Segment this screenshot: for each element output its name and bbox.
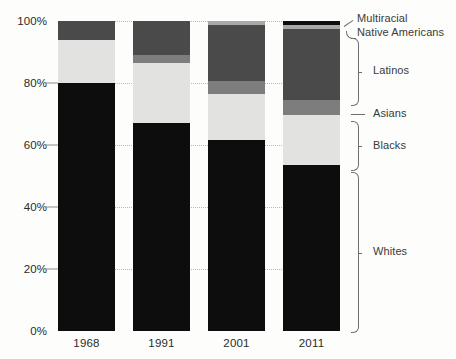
segment-blacks-2001: [208, 94, 265, 141]
segment-native-americans-2011: [283, 25, 340, 29]
ytick-label-0: 0%: [30, 325, 47, 337]
ytick-label-80: 80%: [24, 77, 47, 89]
segment-whites-2011: [283, 165, 340, 331]
segment-blacks-1968: [58, 40, 115, 83]
legend-label-whites: Whites: [373, 245, 407, 257]
bar-1991[interactable]: [133, 21, 190, 331]
ytick-dash-80: [45, 83, 58, 84]
legend-label-multiracial: Multiracial: [357, 12, 408, 24]
segment-whites-1968: [58, 83, 115, 331]
latinos-brace: [351, 38, 359, 106]
whites-brace: [351, 172, 359, 333]
legend-label-asians: Asians: [373, 107, 407, 119]
segment-multiracial-2011: [283, 21, 340, 25]
xtick-label-2001: 2001: [208, 337, 265, 349]
xtick-label-1968: 1968: [58, 337, 115, 349]
multiracial-leader: [344, 20, 354, 27]
bar-2011[interactable]: [283, 21, 340, 331]
ytick-label-20: 20%: [24, 263, 47, 275]
segment-native-americans-2001: [208, 21, 265, 25]
segment-asians-2001: [208, 81, 265, 94]
stacked-bar-chart: 100% 80% 60% 40% 20% 0% 1968 1991: [0, 0, 456, 359]
ytick-label-100: 100%: [17, 15, 47, 27]
ytick-dash-60: [45, 145, 58, 146]
segment-blacks-1991: [133, 63, 190, 123]
legend-label-blacks: Blacks: [373, 139, 406, 151]
segment-latinos-2011: [283, 29, 340, 100]
segment-whites-2001: [208, 140, 265, 331]
legend-label-latinos: Latinos: [373, 64, 409, 76]
legend-label-native-americans: Native Americans: [357, 26, 444, 38]
blacks-brace: [351, 121, 359, 171]
segment-latinos-1991: [133, 21, 190, 55]
segment-latinos-1968: [58, 21, 115, 40]
ytick-label-60: 60%: [24, 139, 47, 151]
xtick-label-2011: 2011: [283, 337, 340, 349]
bar-1968[interactable]: [58, 21, 115, 331]
ytick-dash-40: [45, 207, 58, 208]
segment-asians-2011: [283, 100, 340, 115]
segment-whites-1991: [133, 123, 190, 331]
segment-latinos-2001: [208, 25, 265, 81]
xtick-label-1991: 1991: [133, 337, 190, 349]
bar-2001[interactable]: [208, 21, 265, 331]
asians-leader: [351, 114, 365, 115]
ytick-label-40: 40%: [24, 201, 47, 213]
legend-labels: Multiracial Native Americans Latinos Asi…: [348, 0, 456, 359]
segment-blacks-2011: [283, 115, 340, 165]
ytick-dash-20: [45, 269, 58, 270]
segment-asians-1991: [133, 55, 190, 63]
plot-area: 100% 80% 60% 40% 20% 0% 1968 1991: [58, 21, 340, 331]
